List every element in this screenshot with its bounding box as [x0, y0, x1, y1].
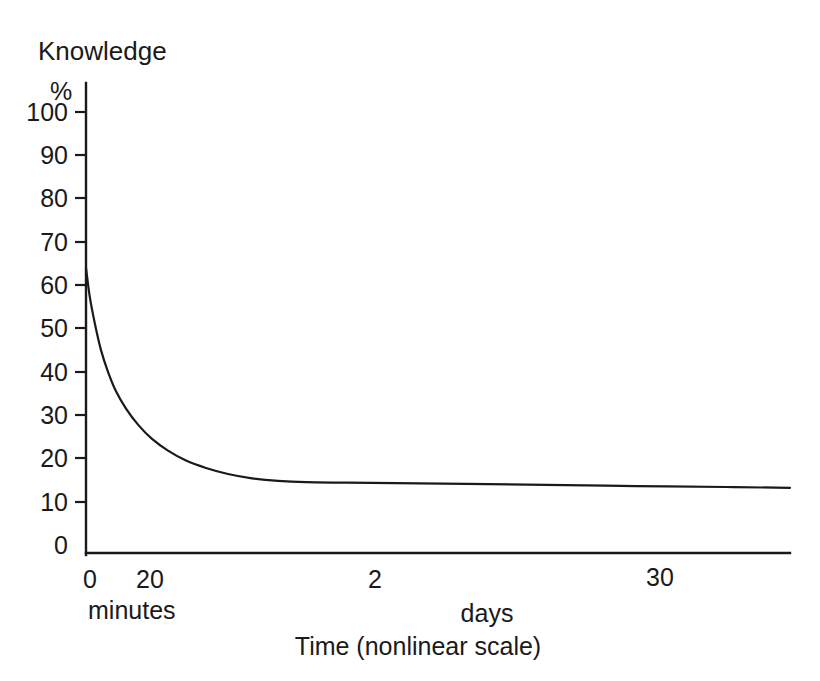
y-tick-label-90: 90 — [40, 141, 68, 169]
chart-title: Knowledge — [38, 36, 167, 66]
y-tick-label-0: 0 — [54, 531, 68, 559]
x-axis-group-labels: minutes days — [88, 596, 513, 627]
x-group-label-days: days — [461, 599, 514, 627]
y-tick-label-10: 10 — [40, 488, 68, 516]
y-tick-label-50: 50 — [40, 314, 68, 342]
x-tick-label-2: 2 — [368, 565, 382, 593]
y-tick-label-30: 30 — [40, 401, 68, 429]
y-tick-label-40: 40 — [40, 358, 68, 386]
chart-canvas: Knowledge % 100 90 80 70 60 50 — [0, 0, 820, 681]
y-tick-label-70: 70 — [40, 228, 68, 256]
x-tick-label-30: 30 — [646, 563, 674, 591]
x-axis-title: Time (nonlinear scale) — [295, 632, 541, 660]
y-tick-label-60: 60 — [40, 271, 68, 299]
y-tick-label-20: 20 — [40, 444, 68, 472]
y-tick-label-100: 100 — [26, 98, 68, 126]
forgetting-curve-figure: Knowledge % 100 90 80 70 60 50 — [0, 0, 820, 681]
x-tick-label-20: 20 — [136, 565, 164, 593]
y-axis-tick-labels: 100 90 80 70 60 50 40 30 20 10 0 — [26, 98, 68, 559]
forgetting-curve-line — [86, 268, 790, 488]
x-group-label-minutes: minutes — [88, 596, 176, 624]
y-tick-label-80: 80 — [40, 184, 68, 212]
x-axis-tick-labels: 0 20 2 30 — [83, 563, 674, 593]
x-tick-label-0: 0 — [83, 565, 97, 593]
